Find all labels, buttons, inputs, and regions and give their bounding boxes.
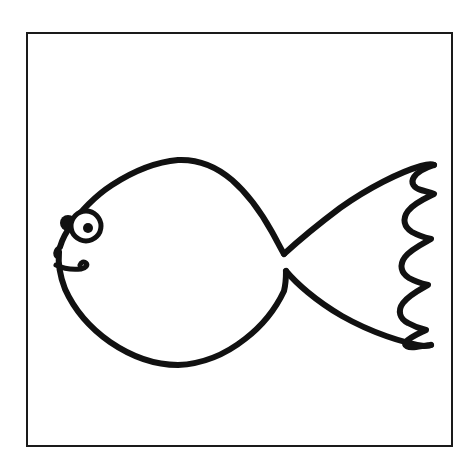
fish-drawing-svg [0,0,476,471]
eye-pupil [83,223,93,233]
image-canvas: Black outline coloring-book style drawin… [0,0,476,471]
snout-tip [56,247,60,256]
